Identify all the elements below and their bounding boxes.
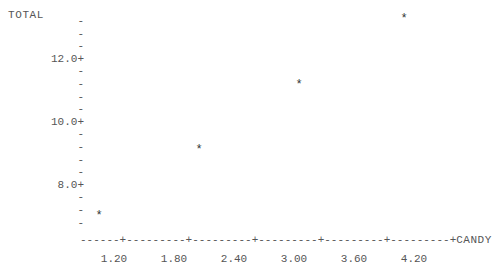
data-point-marker: * — [399, 13, 409, 25]
data-point-marker: * — [294, 79, 304, 91]
data-point-marker: * — [194, 144, 204, 156]
data-point-marker: * — [94, 210, 104, 222]
